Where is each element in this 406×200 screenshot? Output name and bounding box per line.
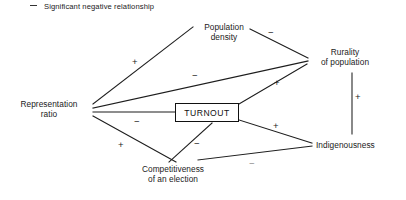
sign-turnout-to-indigenousness: + — [273, 121, 279, 131]
node-indigenousness: Indigenousness — [316, 140, 396, 150]
node-competitiveness-line1: Competitiveness — [117, 164, 229, 174]
sign-rep-to-turnout: − — [134, 117, 140, 127]
sign-popdensity-to-rurality: − — [268, 28, 274, 38]
node-representation-ratio-line2: ratio — [9, 109, 89, 119]
edge-popdensity-to-rurality — [250, 29, 308, 58]
sign-rep-to-competitiveness: + — [118, 140, 124, 150]
node-turnout-box: TURNOUT — [175, 103, 239, 122]
sign-rep-to-rurality: − — [192, 71, 198, 81]
edge-competitiveness-to-indigenousness — [198, 146, 312, 160]
node-population-density: Population density — [196, 22, 252, 42]
legend: Significant negative relationship — [30, 2, 154, 11]
node-competitiveness-of-an-election: Competitiveness of an election — [117, 164, 229, 184]
legend-negative-symbol-icon — [30, 5, 37, 6]
node-indigenousness-label: Indigenousness — [316, 140, 396, 150]
path-diagram: Significant negative relationship Popula… — [0, 0, 406, 200]
node-representation-ratio-line1: Representation — [9, 99, 89, 109]
edge-turnout-to-competitiveness — [169, 123, 212, 162]
node-rurality-of-population: Rurality of population — [310, 47, 380, 67]
edge-rep-to-popdensity — [93, 27, 193, 104]
sign-rurality-to-indigenousness: + — [355, 92, 361, 102]
node-rurality-line1: Rurality — [310, 47, 380, 57]
legend-label: Significant negative relationship — [44, 2, 154, 11]
node-representation-ratio: Representation ratio — [9, 99, 89, 119]
sign-rep-to-popdensity: + — [132, 57, 138, 67]
sign-turnout-to-competitiveness: − — [194, 139, 200, 149]
node-turnout-label: TURNOUT — [184, 108, 230, 118]
node-competitiveness-line2: of an election — [117, 174, 229, 184]
edge-rurality-to-turnout — [239, 64, 307, 104]
sign-competitiveness-to-indigenousness: − — [249, 159, 255, 169]
node-population-density-line1: Population — [196, 22, 252, 32]
sign-rurality-to-turnout: + — [274, 78, 280, 88]
node-rurality-line2: of population — [310, 57, 380, 67]
node-population-density-line2: density — [196, 32, 252, 42]
